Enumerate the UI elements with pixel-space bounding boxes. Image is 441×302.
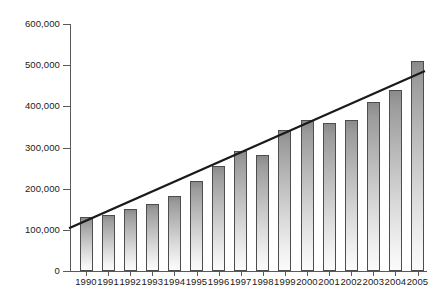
y-axis-tick-label: 100,000 xyxy=(25,225,60,235)
bar xyxy=(323,123,336,271)
bar xyxy=(212,166,225,271)
y-axis-tick xyxy=(63,106,70,107)
bar xyxy=(168,196,181,271)
bar xyxy=(278,130,291,271)
bar xyxy=(367,102,380,271)
bar xyxy=(124,209,137,271)
plot-area xyxy=(70,24,425,271)
bar-chart: 0100,000200,000300,000400,000500,000600,… xyxy=(0,0,441,302)
y-axis-tick-label: 600,000 xyxy=(25,19,60,29)
y-axis-tick xyxy=(63,271,70,272)
bar xyxy=(146,204,159,271)
y-axis-tick xyxy=(63,24,70,25)
y-axis-tick-label: 300,000 xyxy=(25,143,60,153)
bar xyxy=(301,120,314,271)
bar xyxy=(190,181,203,271)
bar xyxy=(345,120,358,271)
bar xyxy=(102,215,115,271)
y-axis-tick xyxy=(63,65,70,66)
bar xyxy=(389,90,402,271)
x-axis-tick-label: 2005 xyxy=(401,277,435,287)
y-axis-tick xyxy=(63,230,70,231)
y-axis-tick-label: 500,000 xyxy=(25,60,60,70)
bar xyxy=(411,61,424,271)
y-axis-tick-label: 0 xyxy=(55,266,60,276)
y-axis-tick-label: 400,000 xyxy=(25,101,60,111)
bar xyxy=(80,217,93,271)
y-axis-tick xyxy=(63,148,70,149)
y-axis-tick-label: 200,000 xyxy=(25,184,60,194)
bar xyxy=(256,155,269,272)
y-axis-tick xyxy=(63,189,70,190)
bar xyxy=(234,151,247,271)
